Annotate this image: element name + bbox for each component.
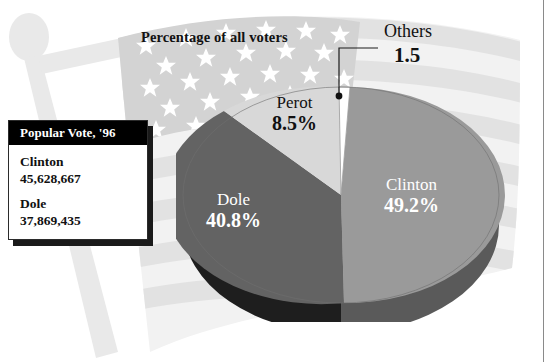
legend-row: Clinton 45,628,667 [20, 154, 147, 188]
slice-label-others: Others 1.5 [384, 22, 432, 66]
legend-header: Popular Vote, '96 [9, 121, 147, 145]
legend-body: Clinton 45,628,667 Dole 37,869,435 [9, 145, 147, 230]
slice-label-dole-value: 40.8% [206, 210, 261, 231]
chart-canvas: Percentage of all voters Clinton [0, 0, 555, 362]
slice-label-clinton-name: Clinton [384, 176, 439, 194]
slice-label-perot-value: 8.5% [272, 113, 317, 134]
others-leader-line [330, 40, 390, 105]
slice-label-perot: Perot 8.5% [272, 94, 317, 134]
legend-row-name: Clinton [20, 154, 147, 171]
slice-label-perot-name: Perot [272, 94, 317, 112]
legend-row-value: 45,628,667 [20, 171, 147, 188]
slice-label-clinton: Clinton 49.2% [384, 176, 439, 216]
page-title: Percentage of all voters [141, 29, 288, 46]
popular-vote-legend: Popular Vote, '96 Clinton 45,628,667 Dol… [8, 120, 148, 240]
legend-row: Dole 37,869,435 [20, 196, 147, 230]
slice-label-others-value: 1.5 [394, 44, 432, 66]
slice-label-clinton-value: 49.2% [384, 195, 439, 216]
legend-row-value: 37,869,435 [20, 213, 147, 230]
legend-row-name: Dole [20, 196, 147, 213]
slice-label-others-name: Others [384, 22, 432, 41]
right-margin-rule [543, 0, 544, 362]
slice-label-dole-name: Dole [206, 191, 261, 209]
slice-label-dole: Dole 40.8% [206, 191, 261, 231]
